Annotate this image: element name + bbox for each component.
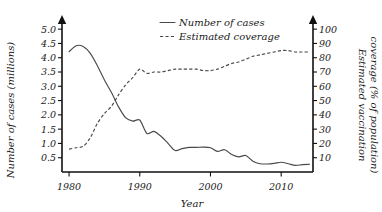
chart-container: 0.51.01.52.02.53.03.54.04.55.0 102030405… [0,0,382,212]
left-tick-label: 3.5 [41,66,56,77]
left-tick-label: 4.0 [40,52,56,63]
left-tick-label: 2.5 [40,95,56,106]
left-axis-arrow-icon [58,15,66,24]
right-tick-label: 60 [319,81,331,92]
left-axis-ticks: 0.51.01.52.02.53.03.54.04.55.0 [40,24,62,164]
left-tick-label: 3.0 [41,81,56,92]
left-tick-label: 0.5 [41,152,56,163]
right-axis-ticks: 102030405060708090100 [313,24,337,164]
y2-axis-title-line2: coverage (% of population) [369,37,380,174]
right-tick-label: 20 [318,138,331,149]
y-axis-title: Number of cases (millions) [5,42,16,180]
x-axis-ticks: 1980199020002010 [57,172,293,192]
right-tick-label: 10 [319,152,331,163]
legend-label-estimated-coverage: Estimated coverage [178,31,280,42]
x-tick-label: 2010 [268,181,293,192]
right-tick-label: 80 [319,52,331,63]
x-tick-label: 1980 [57,181,81,192]
legend-label-number-of-cases: Number of cases [178,17,265,28]
right-tick-label: 70 [319,66,331,77]
right-tick-label: 40 [318,109,331,120]
left-tick-label: 2.0 [40,109,56,120]
x-tick-label: 1990 [128,181,152,192]
left-tick-label: 4.5 [40,38,56,49]
legend: Number of cases Estimated coverage [160,17,280,42]
left-tick-label: 1.0 [41,138,56,149]
right-tick-label: 50 [319,95,331,106]
data-series [69,45,309,165]
right-tick-label: 30 [319,124,331,135]
x-tick-label: 2000 [197,181,222,192]
series-number-of-cases [69,45,309,165]
y2-axis-title-line1: Estimated vaccination [357,48,368,162]
right-tick-label: 90 [319,38,331,49]
left-tick-label: 1.5 [41,124,56,135]
right-axis-arrow-icon [309,15,317,24]
dual-axis-line-chart: 0.51.01.52.02.53.03.54.04.55.0 102030405… [0,0,382,212]
right-tick-label: 100 [319,24,337,35]
series-estimated-coverage [69,50,309,149]
x-axis-title: Year [181,198,205,209]
left-tick-label: 5.0 [41,24,56,35]
